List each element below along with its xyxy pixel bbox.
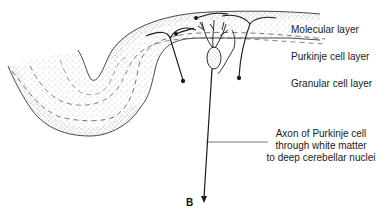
axon-arrowhead-icon bbox=[201, 196, 207, 203]
purkinje-cell bbox=[198, 20, 235, 203]
label-purkinje-cell-layer: Purkinje cell layer bbox=[291, 51, 369, 63]
axon-annotation-line-2: through white matter bbox=[265, 140, 377, 152]
label-granular-cell-layer: Granular cell layer bbox=[291, 78, 372, 90]
axon-annotation-line-1: Axon of Purkinje cell bbox=[265, 128, 377, 140]
label-molecular-layer: Molecular layer bbox=[291, 24, 359, 36]
purkinje-axon bbox=[204, 69, 212, 198]
axon-annotation-line-3: to deep cerebellar nuclei bbox=[265, 152, 377, 164]
folium-body bbox=[8, 11, 322, 136]
panel-label: B bbox=[186, 197, 193, 208]
axon-annotation: Axon of Purkinje cell through white matt… bbox=[265, 128, 377, 164]
purkinje-soma bbox=[207, 47, 221, 69]
